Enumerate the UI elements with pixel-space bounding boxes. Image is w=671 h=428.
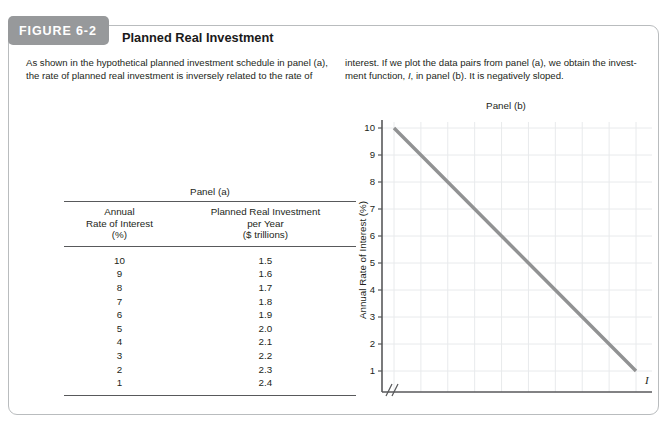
x-tick-label: 1.7 xyxy=(441,397,454,400)
cell-planned-investment: 2.4 xyxy=(175,376,356,395)
caption-right-text-2: , in panel (b). It is negatively sloped. xyxy=(411,70,564,81)
cell-planned-investment: 2.1 xyxy=(175,335,356,349)
investment-function-chart: 01.51.61.71.81.92.02.12.22.32.4 12345678… xyxy=(356,100,656,400)
x-tick-label: 2.2 xyxy=(576,397,589,400)
column-header-line-3: ($ trillions) xyxy=(175,229,356,241)
table-row: 32.2 xyxy=(64,349,356,363)
table-row: 91.6 xyxy=(64,267,356,281)
cell-planned-investment: 1.6 xyxy=(175,267,356,281)
x-tick-label: 2.3 xyxy=(602,397,615,400)
cell-rate-of-interest: 7 xyxy=(64,294,175,308)
cell-planned-investment: 2.2 xyxy=(175,349,356,363)
cell-rate-of-interest: 10 xyxy=(64,246,175,267)
table-row: 22.3 xyxy=(64,362,356,376)
y-tick-label: 4 xyxy=(370,284,376,295)
x-tick-label: 1.8 xyxy=(468,397,481,400)
cell-rate-of-interest: 2 xyxy=(64,362,175,376)
cell-planned-investment: 1.9 xyxy=(175,308,356,322)
cell-planned-investment: 1.8 xyxy=(175,294,356,308)
table-row: 81.7 xyxy=(64,281,356,295)
cell-planned-investment: 1.5 xyxy=(175,246,356,267)
panel-b-chart-container: Panel (b) 01.51.61.71.81.92.02.12.22.32.… xyxy=(356,100,656,400)
figure-number-badge: FIGURE 6-2 xyxy=(8,16,109,45)
y-tick-label: 3 xyxy=(370,311,375,322)
table-header: Annual Rate of Interest (%) Planned Real… xyxy=(64,202,356,247)
investment-function-line xyxy=(394,128,636,371)
y-tick-label: 5 xyxy=(370,257,375,268)
cell-rate-of-interest: 1 xyxy=(64,376,175,395)
y-tick-label: 8 xyxy=(370,176,375,187)
axis-break-mark-2 xyxy=(392,384,398,396)
curve-label-I: I xyxy=(644,374,650,386)
column-header-annual-rate: Annual Rate of Interest (%) xyxy=(64,202,175,247)
table-row: 12.4 xyxy=(64,376,356,395)
table-bottom-rule xyxy=(64,395,356,396)
chart-gridlines xyxy=(382,122,652,392)
column-header-line-1: Planned Real Investment xyxy=(175,206,356,218)
column-header-planned-investment: Planned Real Investment per Year ($ tril… xyxy=(175,202,356,247)
column-header-line-3: (%) xyxy=(64,229,175,241)
panel-a-table-container: Panel (a) Annual Rate of Interest (%) Pl… xyxy=(64,186,356,396)
caption-right-column: interest. If we plot the data pairs from… xyxy=(345,57,657,82)
cell-rate-of-interest: 9 xyxy=(64,267,175,281)
cell-rate-of-interest: 6 xyxy=(64,308,175,322)
cell-planned-investment: 1.7 xyxy=(175,281,356,295)
cell-planned-investment: 2.0 xyxy=(175,321,356,335)
x-tick-label: 1.9 xyxy=(495,397,508,400)
cell-rate-of-interest: 4 xyxy=(64,335,175,349)
table-row: 52.0 xyxy=(64,321,356,335)
y-tick-label: 6 xyxy=(370,230,375,241)
x-tick-label: 1.6 xyxy=(414,397,427,400)
panel-a-title: Panel (a) xyxy=(64,186,356,197)
y-tick-label: 2 xyxy=(370,338,375,349)
x-tick-label: 2.4 xyxy=(629,397,643,400)
chart-x-tick-labels: 01.51.61.71.81.92.02.12.22.32.4 xyxy=(377,397,643,400)
table-row: 71.8 xyxy=(64,294,356,308)
table-row: 42.1 xyxy=(64,335,356,349)
y-tick-label: 10 xyxy=(364,122,375,133)
x-tick-label: 1.5 xyxy=(387,397,400,400)
column-header-line-1: Annual xyxy=(64,206,175,218)
page-title: Planned Real Investment xyxy=(122,30,273,45)
y-tick-label: 9 xyxy=(370,149,375,160)
x-tick-label: 2.0 xyxy=(522,397,535,400)
column-header-line-2: Rate of Interest xyxy=(64,218,175,230)
column-header-line-2: per Year xyxy=(175,218,356,230)
x-tick-label: 2.1 xyxy=(549,397,562,400)
cell-rate-of-interest: 5 xyxy=(64,321,175,335)
chart-series: I xyxy=(394,128,650,386)
investment-schedule-table: Annual Rate of Interest (%) Planned Real… xyxy=(64,201,356,395)
table-row: 61.9 xyxy=(64,308,356,322)
table-row: 101.5 xyxy=(64,246,356,267)
cell-rate-of-interest: 8 xyxy=(64,281,175,295)
x-origin-label: 0 xyxy=(377,397,382,400)
chart-axes xyxy=(382,120,652,396)
cell-planned-investment: 2.3 xyxy=(175,362,356,376)
table-body: 101.591.681.771.861.952.042.132.222.312.… xyxy=(64,246,356,395)
y-tick-label: 1 xyxy=(370,365,375,376)
y-tick-label: 7 xyxy=(370,203,375,214)
cell-rate-of-interest: 3 xyxy=(64,349,175,363)
axis-break-mark-1 xyxy=(386,384,392,396)
table-header-row: Annual Rate of Interest (%) Planned Real… xyxy=(64,202,356,247)
chart-axis-titles: Planned Real Investment per Year ($ tril… xyxy=(357,201,616,400)
caption-left-column: As shown in the hypothetical planned inv… xyxy=(26,57,338,82)
y-axis-title: Annual Rate of Interest (%) xyxy=(357,201,368,319)
